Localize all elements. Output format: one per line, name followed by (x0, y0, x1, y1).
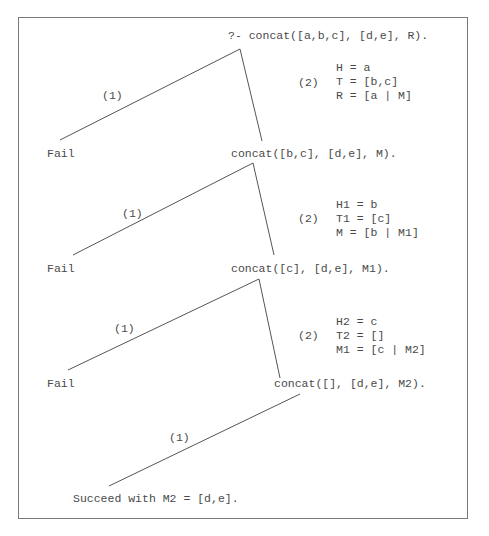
success-result: Succeed with M2 = [d,e]. (73, 492, 239, 505)
clause2-label: (2) (298, 212, 319, 225)
binding: T1 = [c] (336, 212, 391, 225)
binding: T2 = [] (336, 329, 384, 342)
subgoal: concat([b,c], [d,e], M). (231, 147, 397, 160)
fail-label: Fail (47, 147, 75, 160)
binding: H1 = b (336, 198, 377, 211)
query-goal: ?- concat([a,b,c], [d,e], R). (228, 29, 428, 42)
edge-l2-clause2 (253, 163, 274, 255)
clause1-label: (1) (114, 322, 135, 335)
clause2-label: (2) (298, 329, 319, 342)
clause1-label: (1) (122, 207, 143, 220)
clause1-label: (1) (169, 431, 190, 444)
edge-l3-clause1 (68, 279, 259, 370)
clause2-label: (2) (298, 76, 319, 89)
edge-l1-clause1 (60, 49, 240, 140)
binding: M1 = [c | M2] (336, 343, 426, 356)
binding: H = a (336, 61, 371, 74)
binding: H2 = c (336, 315, 377, 328)
subgoal: concat([], [d,e], M2). (274, 377, 426, 390)
fail-label: Fail (47, 262, 75, 275)
edge-l1-clause2 (240, 49, 262, 141)
binding: R = [a | M] (336, 89, 412, 102)
binding: T = [b,c] (336, 75, 398, 88)
clause1-label: (1) (102, 89, 123, 102)
subgoal: concat([c], [d,e], M1). (231, 262, 390, 275)
edge-l4-clause1 (109, 394, 300, 486)
edge-l3-clause2 (259, 279, 280, 378)
binding: M = [b | M1] (336, 226, 419, 239)
edge-l2-clause1 (73, 163, 253, 255)
fail-label: Fail (47, 377, 75, 390)
